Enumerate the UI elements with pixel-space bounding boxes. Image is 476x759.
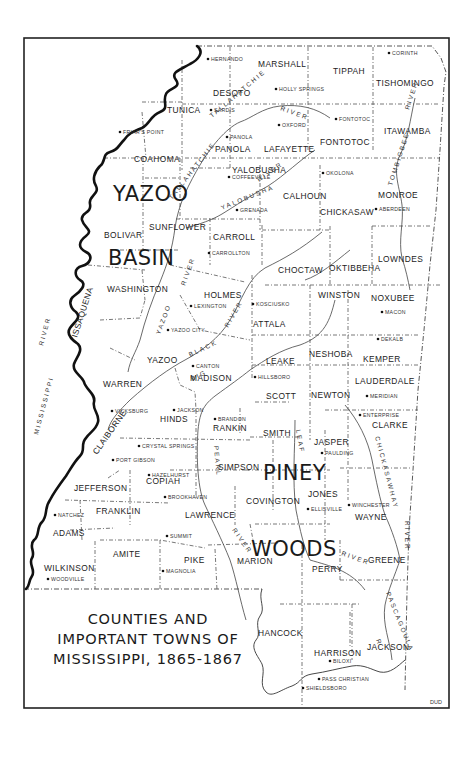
town-label: FONTOTOC [339, 116, 370, 122]
town-label: ELLISVILLE [311, 506, 343, 512]
county-label: PIKE [184, 555, 205, 565]
county-label: MONROE [378, 190, 418, 200]
town-marker-icon [162, 570, 165, 573]
town-label: MACON [385, 309, 406, 315]
region-label: BASIN [108, 246, 175, 270]
river-label: RIVER [37, 316, 51, 346]
town-label: CORINTH [392, 50, 418, 56]
county-label: TIPPAH [333, 66, 365, 76]
river-label: YAZOO [154, 303, 171, 335]
county-label: CALHOUN [283, 191, 327, 201]
county-label: TUNICA [167, 105, 201, 115]
county-label: HANCOCK [258, 628, 303, 638]
town-label: BILOXI [333, 658, 352, 664]
town-label: KOSCIUSKO [256, 301, 290, 307]
county-label: MARION [237, 556, 273, 566]
river-label: RIVER [341, 549, 371, 566]
town-marker-icon [228, 176, 231, 179]
county-label: OKTIBBEHA [329, 263, 381, 273]
river-label: RIVER [179, 256, 196, 286]
town-label: VICKSBURG [115, 408, 148, 414]
town-marker-icon [192, 365, 195, 368]
town-marker-icon [278, 124, 281, 127]
river-label: PEARL [213, 445, 223, 476]
county-label: LAUDERDALE [355, 376, 415, 386]
town-label: WINCHESTER [352, 502, 390, 508]
town-marker-icon [148, 474, 151, 477]
map-title: COUNTIES AND IMPORTANT TOWNS OF MISSISSI… [53, 611, 243, 667]
county-label: KEMPER [363, 354, 401, 364]
town-label: HAZELHURST [152, 472, 190, 478]
town-label: ENTERPRISE [363, 412, 399, 418]
town-marker-icon [111, 410, 114, 413]
county-label: SMITH [263, 428, 291, 438]
town-marker-icon [252, 303, 255, 306]
town-label: HERNANDO [211, 56, 243, 62]
title-line: MISSISSIPPI, 1865-1867 [53, 651, 243, 667]
river-label: CHICKASAWHAY [374, 435, 400, 509]
county-label: LAWRENCE [185, 510, 235, 520]
county-label: HINDS [160, 414, 188, 424]
county-label: CARROLL [213, 232, 255, 242]
town-marker-icon [164, 496, 167, 499]
town-label: PASS CHRISTIAN [322, 676, 369, 682]
town-label: PANOLA [230, 134, 253, 140]
town-label: PORT GIBSON [116, 457, 155, 463]
county-label: SUNFLOWER [149, 222, 206, 232]
county-label: JEFFERSON [74, 483, 127, 493]
county-label: AMITE [113, 549, 141, 559]
county-label: ISSAQUENA [69, 286, 95, 339]
town-label: YAZOO CITY [171, 327, 205, 333]
town-marker-icon [348, 504, 351, 507]
town-marker-icon [377, 338, 380, 341]
town-label: HOLLY SPRINGS [279, 86, 324, 92]
county-label: FONTOTOC [320, 137, 370, 147]
town-marker-icon [275, 88, 278, 91]
town-marker-icon [173, 409, 176, 412]
county-label: CHICKASAW [320, 207, 374, 217]
river-label: MISSISSIPPI [32, 375, 54, 435]
town-label: CARROLLTON [212, 250, 250, 256]
town-marker-icon [236, 209, 239, 212]
town-marker-icon [208, 252, 211, 255]
town-label: MERIDIAN [370, 393, 398, 399]
town-label: GRENADA [240, 207, 268, 213]
county-label: TISHOMINGO [376, 78, 434, 88]
town-label: PAULDING [325, 450, 354, 456]
town-label: CANTON [196, 363, 220, 369]
county-labels: MARSHALLTIPPAHTISHOMINGODESOTOTUNICAPANO… [44, 59, 434, 658]
town-marker-icon [207, 58, 210, 61]
town-label: OKOLONA [326, 170, 354, 176]
county-label: JACKSON [367, 642, 409, 652]
town-label: HILLSBORO [258, 374, 290, 380]
river-label: TOMBIGBEE [386, 131, 410, 186]
county-label: WILKINSON [44, 563, 95, 573]
town-marker-icon [112, 459, 115, 462]
river-label: RIVER [404, 521, 411, 551]
credit-initials: DUD [430, 699, 442, 705]
town-marker-icon [302, 687, 305, 690]
river-label: TALLAHATCHIE [167, 141, 216, 201]
town-label: FRIAR'S POINT [123, 129, 165, 135]
county-label: WINSTON [318, 290, 360, 300]
county-label: HOLMES [204, 290, 242, 300]
county-label: NOXUBEE [371, 293, 415, 303]
town-marker-icon [359, 414, 362, 417]
town-marker-icon [321, 452, 324, 455]
county-label: CHOCTAW [278, 265, 323, 275]
county-label: BOLIVAR [104, 230, 142, 240]
title-line: COUNTIES AND [88, 611, 209, 627]
town-label: SUMMIT [170, 533, 193, 539]
river-label: LEAF [295, 429, 306, 454]
town-label: WOODVILLE [51, 576, 85, 582]
town-marker-icon [366, 395, 369, 398]
town-marker-icon [214, 418, 217, 421]
town-marker-icon [322, 172, 325, 175]
county-label: ADAMS [53, 528, 85, 538]
county-label: WASHINGTON [107, 284, 168, 294]
town-marker-icon [375, 208, 378, 211]
town-marker-icon [190, 305, 193, 308]
county-label: COVINGTON [246, 496, 300, 506]
town-marker-icon [119, 131, 122, 134]
town-label: ABERDEEN [379, 206, 410, 212]
